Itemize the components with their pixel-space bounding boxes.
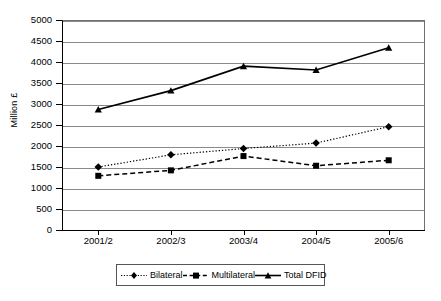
total-dfid-line-icon	[255, 270, 281, 281]
legend: Bilateral Multilateral Total DFID	[116, 264, 325, 286]
legend-label-multilateral: Multilateral	[212, 270, 256, 280]
data-point	[167, 151, 175, 159]
data-point	[240, 145, 248, 153]
series-multilateral	[95, 153, 391, 179]
legend-item-total-dfid[interactable]: Total DFID	[255, 270, 327, 281]
legend-label-total-dfid: Total DFID	[284, 270, 327, 280]
legend-item-bilateral[interactable]: Bilateral	[121, 270, 183, 281]
multilateral-line-icon	[183, 270, 209, 281]
legend-label-bilateral: Bilateral	[150, 270, 183, 280]
data-point	[168, 167, 174, 173]
data-point	[313, 163, 319, 169]
data-point	[385, 44, 392, 50]
bilateral-line-icon	[121, 270, 147, 281]
data-point	[95, 163, 103, 171]
legend-item-multilateral[interactable]: Multilateral	[183, 270, 256, 281]
data-point	[386, 157, 392, 163]
line-chart: Million £ 050010001500200025003000350040…	[0, 0, 441, 301]
series-line	[98, 48, 388, 110]
series-layer	[0, 0, 441, 301]
data-point	[385, 123, 393, 131]
data-point	[241, 153, 247, 159]
series-total-dfid	[95, 44, 393, 112]
data-point	[312, 139, 320, 147]
data-point	[95, 173, 101, 179]
